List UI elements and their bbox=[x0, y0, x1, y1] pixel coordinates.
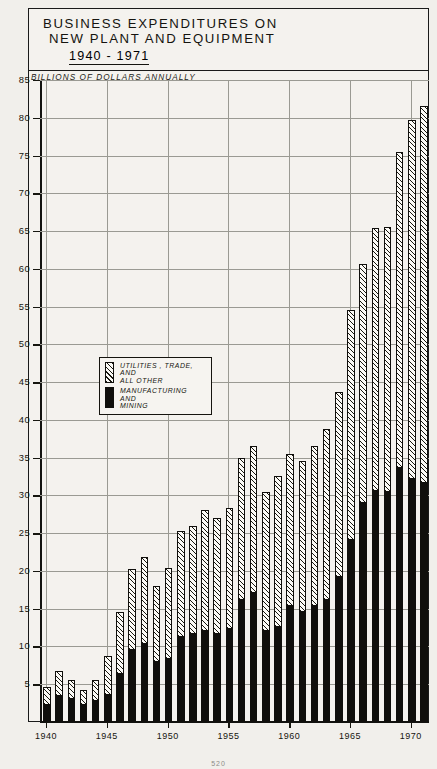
x-axis-label: 1965 bbox=[339, 731, 361, 741]
bar-1966 bbox=[359, 264, 367, 722]
bar-1963 bbox=[323, 429, 331, 722]
y-axis-tick bbox=[33, 495, 40, 496]
bar-segment-manufacturing-1951 bbox=[177, 637, 185, 722]
gridline-horizontal bbox=[40, 118, 429, 119]
x-axis-label: 1970 bbox=[400, 731, 422, 741]
bar-segment-manufacturing-1949 bbox=[153, 662, 161, 722]
legend-label-manufacturing: MANUFACTURING AND MINING bbox=[120, 387, 187, 409]
bar-1950 bbox=[165, 568, 173, 722]
bar-1956 bbox=[238, 458, 246, 722]
y-axis-label: 55 bbox=[4, 301, 30, 312]
bar-1942 bbox=[68, 680, 76, 722]
x-axis-tick bbox=[289, 722, 290, 728]
y-axis-tick bbox=[33, 420, 40, 421]
x-axis-label: 1945 bbox=[96, 731, 118, 741]
bar-1964 bbox=[335, 392, 343, 722]
bar-segment-utilities-1957 bbox=[250, 446, 258, 593]
y-axis-label: 65 bbox=[4, 225, 30, 236]
gridline-horizontal bbox=[40, 193, 429, 194]
bar-1959 bbox=[274, 476, 282, 722]
bar-segment-manufacturing-1970 bbox=[408, 479, 416, 722]
legend-label-utilities: UTILITIES , TRADE, AND ALL OTHER bbox=[120, 362, 193, 384]
bar-segment-utilities-1958 bbox=[262, 492, 270, 632]
bar-1952 bbox=[189, 526, 197, 722]
bar-segment-manufacturing-1947 bbox=[128, 650, 136, 723]
y-axis-tick bbox=[33, 609, 40, 610]
x-axis-tick bbox=[168, 722, 169, 728]
x-axis-label: 1950 bbox=[157, 731, 179, 741]
bar-segment-manufacturing-1945 bbox=[104, 695, 112, 722]
bar-segment-manufacturing-1952 bbox=[189, 634, 197, 722]
bar-segment-manufacturing-1954 bbox=[213, 634, 221, 722]
legend-swatch-hatched-icon bbox=[105, 362, 114, 383]
y-axis-label: 30 bbox=[4, 489, 30, 500]
y-axis-label: 50 bbox=[4, 338, 30, 349]
bar-1946 bbox=[116, 612, 124, 722]
bar-segment-manufacturing-1940 bbox=[43, 705, 51, 722]
y-axis-tick bbox=[33, 684, 40, 685]
bar-segment-manufacturing-1964 bbox=[335, 577, 343, 722]
bar-1968 bbox=[384, 227, 392, 722]
y-axis-tick bbox=[33, 156, 40, 157]
bar-segment-manufacturing-1943 bbox=[80, 705, 88, 722]
y-axis-tick bbox=[33, 533, 40, 534]
bar-segment-utilities-1961 bbox=[299, 461, 307, 612]
bar-segment-manufacturing-1962 bbox=[311, 606, 319, 722]
bar-segment-utilities-1942 bbox=[68, 680, 76, 700]
bar-segment-manufacturing-1956 bbox=[238, 600, 246, 722]
x-axis-label: 1940 bbox=[35, 731, 57, 741]
bar-segment-utilities-1949 bbox=[153, 586, 161, 662]
y-axis-tick bbox=[33, 118, 40, 119]
chart-title-line-2: NEW PLANT AND EQUIPMENT bbox=[43, 31, 428, 46]
bar-segment-utilities-1952 bbox=[189, 526, 197, 635]
bar-segment-manufacturing-1948 bbox=[141, 644, 149, 722]
bar-segment-utilities-1945 bbox=[104, 656, 112, 695]
bar-1970 bbox=[408, 120, 416, 722]
bar-segment-utilities-1967 bbox=[372, 228, 380, 491]
bar-segment-utilities-1968 bbox=[384, 227, 392, 491]
bar-segment-manufacturing-1959 bbox=[274, 627, 282, 722]
bar-segment-manufacturing-1944 bbox=[92, 701, 100, 722]
bar-segment-utilities-1950 bbox=[165, 568, 173, 659]
bar-segment-manufacturing-1971 bbox=[420, 483, 428, 722]
bar-segment-utilities-1963 bbox=[323, 429, 331, 600]
title-block: BUSINESS EXPENDITURES ON NEW PLANT AND E… bbox=[29, 9, 428, 71]
y-axis-label: 10 bbox=[4, 640, 30, 651]
y-axis-tick bbox=[33, 646, 40, 647]
bar-segment-manufacturing-1950 bbox=[165, 659, 173, 722]
chart-legend: UTILITIES , TRADE, AND ALL OTHER MANUFAC… bbox=[99, 357, 212, 415]
bar-segment-utilities-1953 bbox=[201, 510, 209, 631]
bar-segment-manufacturing-1966 bbox=[359, 503, 367, 722]
y-axis-label: 25 bbox=[4, 527, 30, 538]
y-axis-tick bbox=[33, 231, 40, 232]
bar-segment-utilities-1955 bbox=[226, 508, 234, 630]
bar-1965 bbox=[347, 310, 355, 722]
bar-1951 bbox=[177, 531, 185, 722]
bar-segment-manufacturing-1955 bbox=[226, 629, 234, 722]
bar-segment-manufacturing-1965 bbox=[347, 540, 355, 722]
y-axis-tick bbox=[33, 193, 40, 194]
gridline-vertical bbox=[46, 80, 47, 722]
bar-segment-utilities-1971 bbox=[420, 106, 428, 482]
bar-1954 bbox=[213, 518, 221, 722]
bar-segment-utilities-1944 bbox=[92, 680, 100, 701]
y-axis-label: 45 bbox=[4, 376, 30, 387]
y-axis-tick bbox=[33, 382, 40, 383]
bar-segment-utilities-1954 bbox=[213, 518, 221, 634]
bar-1960 bbox=[286, 454, 294, 722]
bar-segment-utilities-1947 bbox=[128, 569, 136, 650]
bar-segment-utilities-1946 bbox=[116, 612, 124, 675]
bar-segment-manufacturing-1957 bbox=[250, 593, 258, 722]
bar-segment-manufacturing-1958 bbox=[262, 631, 270, 722]
y-axis-label: 35 bbox=[4, 452, 30, 463]
y-axis-tick bbox=[33, 269, 40, 270]
y-axis-label: 85 bbox=[4, 74, 30, 85]
page-number: 520 bbox=[0, 760, 437, 767]
bar-1941 bbox=[55, 671, 63, 722]
y-axis-tick bbox=[33, 344, 40, 345]
bar-segment-manufacturing-1941 bbox=[55, 696, 63, 722]
bar-segment-utilities-1943 bbox=[80, 690, 88, 705]
y-axis-label: 80 bbox=[4, 112, 30, 123]
x-axis-tick bbox=[46, 722, 47, 728]
y-axis-label: 15 bbox=[4, 603, 30, 614]
